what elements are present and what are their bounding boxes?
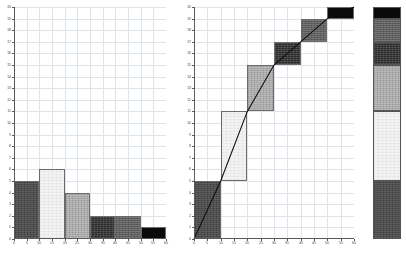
x-tick-label: 45 (126, 241, 130, 245)
y-tick-mark (192, 204, 194, 205)
x-tick-label: 45 (312, 241, 316, 245)
y-tick-mark (192, 158, 194, 159)
cumulative-polyline (194, 7, 354, 239)
gridline-horizontal (14, 19, 166, 20)
stacked-column-plot-area (373, 7, 401, 239)
y-tick-label: 9 (180, 133, 191, 137)
gridline-horizontal (14, 146, 166, 147)
gridline-horizontal (14, 42, 166, 43)
y-tick-mark (192, 169, 194, 170)
y-tick-mark (12, 7, 14, 8)
y-tick-label: 2 (180, 214, 191, 218)
y-tick-label: 13 (180, 86, 191, 90)
y-tick-mark (192, 123, 194, 124)
x-tick-label: 15 (50, 241, 54, 245)
x-tick-label: 60 (352, 241, 356, 245)
y-tick-label: 11 (180, 109, 191, 113)
ogive-panel: 051015202530354045505560 123456789101112… (180, 0, 366, 256)
y-tick-label: 6 (0, 167, 11, 171)
y-tick-label: 15 (0, 63, 11, 67)
stacked-segment (373, 7, 401, 19)
y-tick-mark (12, 111, 14, 112)
y-tick-label: 14 (180, 75, 191, 79)
y-tick-mark (192, 216, 194, 217)
x-tick-label: 5 (26, 241, 28, 245)
y-tick-label: 19 (180, 17, 191, 21)
y-tick-label: 11 (0, 109, 11, 113)
y-tick-label: 18 (180, 28, 191, 32)
y-tick-mark (192, 227, 194, 228)
screenshot-root: Microsoft Excel - Book1 0510152025303540… (0, 0, 406, 256)
x-tick-label: 60 (164, 241, 168, 245)
y-tick-mark (192, 135, 194, 136)
y-tick-label: 12 (0, 98, 11, 102)
y-tick-label: 14 (0, 75, 11, 79)
y-tick-label: 20 (0, 5, 11, 9)
stacked-segment (373, 65, 401, 111)
y-tick-mark (192, 181, 194, 182)
y-tick-mark (192, 100, 194, 101)
y-tick-label: 4 (180, 191, 191, 195)
gridline-horizontal (14, 77, 166, 78)
y-tick-label: 3 (0, 202, 11, 206)
histogram-bar (90, 216, 115, 239)
y-tick-mark (192, 7, 194, 8)
y-tick-mark (192, 77, 194, 78)
y-tick-mark (12, 19, 14, 20)
y-tick-mark (12, 146, 14, 147)
gridline-horizontal (14, 135, 166, 136)
y-tick-mark (192, 146, 194, 147)
y-tick-label: 6 (180, 167, 191, 171)
stacked-column-segments (373, 7, 401, 239)
y-tick-mark (192, 193, 194, 194)
y-tick-label: 16 (0, 51, 11, 55)
y-tick-mark (192, 42, 194, 43)
y-tick-mark (12, 169, 14, 170)
y-tick-label: 8 (180, 144, 191, 148)
y-tick-label: 9 (0, 133, 11, 137)
y-tick-label: 13 (0, 86, 11, 90)
y-tick-mark (12, 193, 14, 194)
y-tick-label: 5 (0, 179, 11, 183)
y-tick-label: 1 (180, 225, 191, 229)
ogive-cumulative-line (194, 7, 354, 239)
histogram-bar (115, 216, 140, 239)
y-tick-label: 19 (0, 17, 11, 21)
y-tick-label: 18 (0, 28, 11, 32)
ogive-y-axis (194, 7, 195, 239)
stacked-segment (373, 111, 401, 181)
x-tick-label: 10 (37, 241, 41, 245)
y-tick-label: 17 (180, 40, 191, 44)
histogram-bar (65, 193, 90, 239)
x-tick-label: 20 (245, 241, 249, 245)
y-tick-label: 10 (180, 121, 191, 125)
x-tick-label: 30 (88, 241, 92, 245)
histogram-bar (14, 181, 39, 239)
stacked-segment (373, 42, 401, 65)
y-tick-label: 3 (180, 202, 191, 206)
y-tick-mark (12, 204, 14, 205)
stacked-column-panel (368, 0, 406, 256)
y-tick-label: 7 (0, 156, 11, 160)
y-tick-mark (12, 239, 14, 240)
y-tick-mark (12, 181, 14, 182)
y-tick-label: 10 (0, 121, 11, 125)
x-tick-label: 25 (259, 241, 263, 245)
y-tick-mark (192, 239, 194, 240)
x-tick-label: 40 (113, 241, 117, 245)
y-tick-mark (12, 88, 14, 89)
y-tick-mark (12, 123, 14, 124)
y-tick-label: 8 (0, 144, 11, 148)
gridline-horizontal (14, 123, 166, 124)
y-tick-mark (12, 227, 14, 228)
y-tick-mark (12, 216, 14, 217)
x-tick-label: 40 (299, 241, 303, 245)
y-tick-label: 15 (180, 63, 191, 67)
y-tick-mark (12, 135, 14, 136)
y-tick-label: 16 (180, 51, 191, 55)
x-tick-label: 0 (13, 241, 15, 245)
y-tick-label: 1 (0, 225, 11, 229)
y-tick-label: 0 (180, 237, 191, 241)
y-tick-label: 17 (0, 40, 11, 44)
x-tick-label: 50 (325, 241, 329, 245)
